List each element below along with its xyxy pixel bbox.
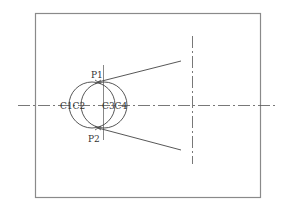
upper-tangent-line bbox=[98, 61, 181, 82]
label-c1c2: C1C2 bbox=[60, 101, 85, 111]
diagram-canvas: P1 P2 C1C2 C3C4 bbox=[0, 0, 285, 213]
label-c3c4: C3C4 bbox=[102, 101, 127, 111]
lower-tangent-line bbox=[98, 128, 181, 150]
label-p2: P2 bbox=[88, 134, 100, 144]
label-p1: P1 bbox=[91, 70, 103, 80]
